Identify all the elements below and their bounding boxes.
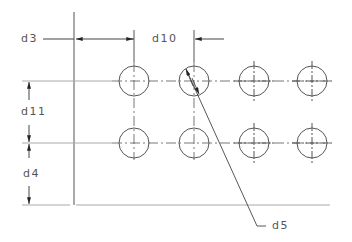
hole-r1-c3 [234, 61, 274, 101]
label-d3: d3 [21, 33, 38, 45]
label-d11: d11 [21, 106, 46, 118]
label-d5: d5 [272, 220, 289, 232]
hole-r2-c3 [234, 123, 274, 163]
label-d10: d10 [152, 33, 177, 45]
label-d4: d4 [23, 168, 40, 180]
part-edges [74, 12, 330, 205]
hole-r2-c4 [292, 123, 332, 163]
extension-lines [22, 30, 194, 205]
hole-grid [119, 61, 332, 163]
hole-r1-c4 [292, 61, 332, 101]
